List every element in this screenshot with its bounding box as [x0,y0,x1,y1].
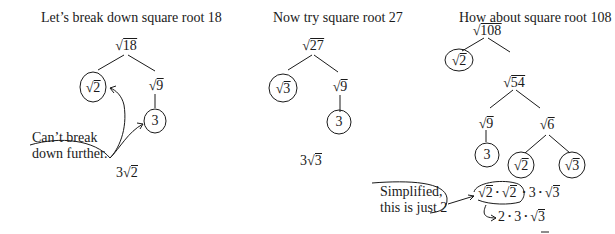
radical-sign: √ [514,159,522,173]
radicand: 2 [486,185,493,199]
tree-root-node: √18 [115,38,137,53]
radical-sign: √ [307,154,315,168]
factor: 2 [498,209,505,224]
factor: 3 [514,209,521,224]
radical-sign: √ [545,186,553,200]
product-step-2: 2•3•√3 [498,209,545,224]
radicand: 3 [572,158,579,172]
radical-sign: √ [502,186,510,200]
radicand: 6 [547,117,554,131]
radical-sign: √ [149,79,157,93]
tree-node-perfect-square: √9 [333,79,348,94]
tree-node-composite: √54 [503,75,525,90]
multiply-dot: • [524,212,527,221]
multiply-dot: • [539,188,542,197]
note-line: this is just 2 [380,200,447,216]
tree-leaf-integer-circled: 3 [484,148,491,162]
product-step-1: √2•√2•3•√3 [478,185,560,200]
radicand: 2 [521,158,528,172]
radicand: 27 [310,38,324,52]
annotation-note: Simplified, this is just 2 [380,184,447,216]
radical-sign: √ [473,24,481,38]
panel-title: Now try square root 27 [273,11,403,25]
radical-sign: √ [115,39,123,53]
radicand: 9 [340,79,347,93]
tree-root-node: √27 [302,38,324,53]
radical-sign: √ [333,80,341,94]
multiply-dot: • [523,188,526,197]
tree-leaf-integer-circled: 3 [152,114,159,128]
multiply-dot: • [496,188,499,197]
tree-leaf-prime-circled: √3 [276,81,291,96]
radicand: 18 [123,38,137,52]
tree-node-perfect-square: √9 [479,116,494,131]
note-line: down further. [32,146,107,162]
coefficient: 3 [116,165,123,180]
simplified-result: 3√3 [300,153,322,168]
tree-node-composite: √6 [540,117,555,132]
radicand: 3 [538,209,545,223]
radical-sign: √ [540,118,548,132]
radical-sign: √ [479,117,487,131]
radicand: 9 [156,78,163,92]
annotation-note: Can’t break down further. [32,130,107,162]
radicand: 3 [283,81,290,95]
radical-sign: √ [123,166,131,180]
radicand: 9 [486,116,493,130]
radicand: 108 [480,23,501,37]
radicand: 2 [93,80,100,94]
coefficient: 3 [300,153,307,168]
factor: 3 [529,185,536,200]
radicand: 54 [511,75,525,89]
tree-root-node: √108 [473,23,502,38]
radicand: 3 [553,185,560,199]
note-line: Can’t break [32,130,107,146]
tree-leaf-prime-circled: √2 [514,158,529,173]
radical-sign: √ [503,76,511,90]
radicand: 2 [459,53,466,67]
multiply-dot: • [508,212,511,221]
tree-leaf-prime-circled: √2 [86,80,101,95]
radical-sign: √ [530,210,538,224]
radical-sign: √ [302,39,310,53]
tree-leaf-prime-circled: √2 [452,53,467,68]
panel-title: Let’s break down square root 18 [41,11,222,25]
radicand: 3 [315,153,322,167]
radical-sign: √ [478,186,486,200]
radical-sign: √ [86,81,94,95]
radical-sign: √ [565,159,573,173]
tree-leaf-prime-circled: √3 [565,158,580,173]
tree-node-perfect-square: √9 [149,78,164,93]
simplified-result: 3√2 [116,165,138,180]
note-line: Simplified, [380,184,447,200]
tree-leaf-integer-circled: 3 [336,115,343,129]
square-root-factor-tree-diagram: Let’s break down square root 18 √18 √2 √… [0,0,615,234]
radical-sign: √ [276,82,284,96]
radicand: 2 [131,165,138,179]
radical-sign: √ [452,54,460,68]
radicand: 2 [510,185,517,199]
